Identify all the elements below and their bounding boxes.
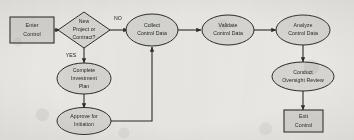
node-enter-control-line2: Control xyxy=(23,31,40,37)
node-complete-plan-line1: Complete xyxy=(73,67,96,73)
node-collect-line1: Collect xyxy=(144,22,161,28)
node-exit-control-line2: Control xyxy=(295,122,312,128)
node-approve-line1: Approve for xyxy=(70,113,98,119)
node-analyze-line2: Control Data xyxy=(288,30,318,36)
node-complete-plan-line3: Plan xyxy=(79,83,90,89)
flowchart-svg: Collect Control Data --> Complete Invest… xyxy=(0,0,354,140)
node-collect-control-data[interactable]: Collect Control Data xyxy=(126,14,178,46)
node-analyze-control-data[interactable]: Analyze Control Data xyxy=(276,15,330,45)
node-collect-line2: Control Data xyxy=(137,30,167,36)
node-validate-line2: Control Data xyxy=(213,30,243,36)
node-decision-new-project[interactable]: New Project or Contract? xyxy=(58,12,110,48)
node-approve-line2: Initiation xyxy=(74,121,94,127)
node-enter-control[interactable]: Enter Control xyxy=(10,17,54,43)
node-complete-plan-line2: Investment xyxy=(71,75,97,81)
flowchart-canvas: Collect Control Data --> Complete Invest… xyxy=(0,0,354,140)
node-exit-control[interactable]: Exit Control xyxy=(284,110,323,132)
node-validate-line1: Validate xyxy=(219,22,238,28)
node-decision-line2: Project or xyxy=(73,26,96,32)
node-analyze-line1: Analyze xyxy=(294,22,313,28)
node-oversight-line1: Conduct xyxy=(293,69,313,75)
edge-approve-to-collect-feedback xyxy=(111,47,152,121)
node-decision-line1: New xyxy=(79,18,90,24)
node-enter-control-line1: Enter xyxy=(26,22,39,28)
node-approve-for-initiation[interactable]: Approve for Initiation xyxy=(57,108,111,135)
node-complete-investment-plan[interactable]: Complete Investment Plan xyxy=(57,63,111,94)
node-conduct-oversight-review[interactable]: Conduct Oversight Review xyxy=(272,62,334,91)
node-oversight-line2: Oversight Review xyxy=(282,77,324,83)
node-exit-control-line1: Exit xyxy=(299,113,308,119)
node-validate-control-data[interactable]: Validate Control Data xyxy=(202,15,254,45)
node-decision-line3: Contract? xyxy=(73,34,96,40)
branch-label-yes: YES xyxy=(66,52,77,58)
branch-label-no: NO xyxy=(114,15,122,21)
